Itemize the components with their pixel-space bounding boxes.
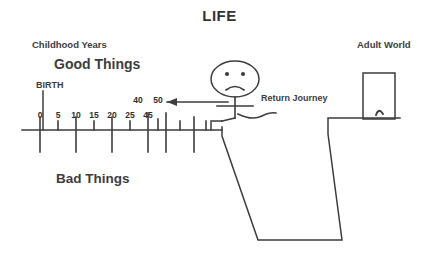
upper-tick-label-40: 40 <box>133 95 142 105</box>
door-frame <box>363 73 395 119</box>
timeline-ticks-long <box>40 113 194 152</box>
tick-label-45: 45 <box>143 110 152 120</box>
return-journey-arrow-head <box>167 98 177 106</box>
figure-head <box>211 61 259 97</box>
tick-label-10: 10 <box>71 110 80 120</box>
timeline-ticks-short <box>58 119 206 130</box>
figure-eye-right <box>241 72 245 76</box>
label-bad-things: Bad Things <box>56 172 130 186</box>
door-knob-icon <box>376 111 383 115</box>
figure-leg <box>222 118 235 121</box>
tick-label-5: 5 <box>56 110 61 120</box>
tick-label-15: 15 <box>89 110 98 120</box>
figure-frown-mouth <box>226 87 244 91</box>
diagram-canvas: LIFE Childhood Years Good Things Bad Thi… <box>0 0 439 254</box>
label-childhood-years: Childhood Years <box>32 40 107 50</box>
page-title: LIFE <box>0 8 439 23</box>
label-return-journey: Return Journey <box>261 94 328 103</box>
tick-label-25: 25 <box>125 110 134 120</box>
label-good-things: Good Things <box>54 57 140 71</box>
upper-tick-label-50: 50 <box>153 95 162 105</box>
label-birth: BIRTH <box>36 81 64 90</box>
tick-label-0: 0 <box>38 110 43 120</box>
figure-eye-left <box>225 72 229 76</box>
tick-label-20: 20 <box>107 110 116 120</box>
ledge-step <box>211 121 222 130</box>
valley-path <box>222 118 400 240</box>
figure-hand-trail <box>238 113 276 118</box>
label-adult-world: Adult World <box>357 40 411 50</box>
